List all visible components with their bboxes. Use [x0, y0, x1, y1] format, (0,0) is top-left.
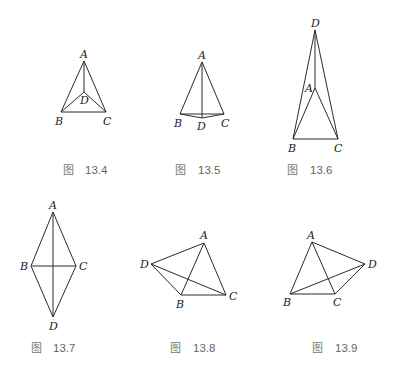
vertex-label-c: C — [221, 117, 230, 130]
figure-sheet: A D B C 图 13.4 A B D C 图 13.5 — [0, 0, 402, 365]
caption-number: 13.4 — [85, 164, 108, 176]
edge-bd — [31, 266, 53, 317]
edge-ab — [180, 62, 202, 114]
vertex-label-a: A — [199, 229, 208, 242]
edge-ac — [315, 88, 338, 139]
figure-13-8: A D B C 图 13.8 — [139, 229, 238, 355]
vertex-label-a: A — [197, 49, 206, 62]
vertex-label-c: C — [334, 142, 343, 155]
vertex-label-d: D — [139, 258, 149, 271]
caption-prefix: 图 — [63, 164, 74, 177]
caption-number: 13.5 — [198, 164, 220, 176]
vertex-label-a: A — [306, 229, 315, 242]
edge-ab — [31, 212, 53, 266]
vertex-label-b: B — [54, 115, 63, 128]
vertex-label-d: D — [310, 17, 320, 30]
edge-ac — [53, 212, 76, 266]
vertex-label-c: C — [103, 115, 112, 128]
edge-bd — [180, 114, 202, 118]
caption-number: 13.9 — [335, 342, 357, 354]
vertex-label-d: D — [79, 94, 89, 107]
figure-13-5: A B D C 图 13.5 — [173, 49, 230, 177]
vertex-label-d: D — [196, 120, 206, 133]
vertex-label-c: C — [333, 296, 342, 309]
vertex-label-d: D — [48, 320, 58, 333]
caption-prefix: 图 — [31, 342, 42, 355]
figure-13-9: A D B C 图 13.9 — [282, 229, 377, 355]
vertex-label-b: B — [175, 298, 184, 311]
edge-ac — [202, 62, 224, 114]
figure-13-4: A D B C 图 13.4 — [54, 48, 112, 177]
edge-cd — [315, 30, 338, 139]
edge-cd — [53, 266, 76, 317]
vertex-label-a: A — [79, 48, 88, 61]
caption-number: 13.7 — [53, 342, 75, 354]
vertex-label-b: B — [287, 142, 296, 155]
caption-number: 13.8 — [193, 342, 215, 354]
caption-prefix: 图 — [175, 164, 186, 177]
vertex-label-a: A — [48, 199, 57, 212]
caption-number: 13.6 — [310, 164, 332, 176]
vertex-label-b: B — [173, 117, 182, 130]
edges — [151, 243, 226, 295]
vertex-label-b: B — [282, 296, 291, 309]
edge-ab — [293, 88, 315, 139]
caption-prefix: 图 — [287, 164, 298, 177]
edge-cd — [335, 264, 365, 294]
caption-prefix: 图 — [170, 342, 181, 355]
vertex-label-b: B — [19, 260, 28, 273]
edges — [293, 30, 338, 139]
edges — [31, 212, 76, 317]
caption-prefix: 图 — [312, 342, 323, 355]
vertex-label-c: C — [79, 260, 88, 273]
edge-bd — [151, 264, 181, 295]
vertex-label-c: C — [229, 290, 238, 303]
edges — [180, 62, 224, 118]
edges — [290, 242, 365, 294]
vertex-label-a: A — [304, 82, 313, 95]
figure-13-6: D A B C 图 13.6 — [287, 17, 343, 177]
figure-13-7: A B C D 图 13.7 — [19, 199, 88, 355]
vertex-label-d: D — [367, 258, 377, 271]
